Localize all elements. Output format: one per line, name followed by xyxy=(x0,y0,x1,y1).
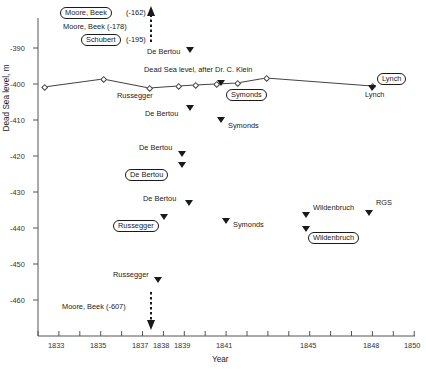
data-marker xyxy=(365,210,373,216)
annotation-schubert-195-value: (-195) xyxy=(126,36,146,43)
x-tick-label: 1848 xyxy=(363,341,379,350)
annotation-moore-beek-162-value: (-162) xyxy=(126,9,146,16)
y-tick-label: -430 xyxy=(10,188,25,197)
point-label-lynch-boxed: Lynch xyxy=(377,73,406,85)
data-marker xyxy=(217,80,225,86)
point-label-wildenbruch: Wildenbruch xyxy=(313,204,354,211)
off-scale-up-arrow xyxy=(147,6,155,42)
x-tick-label: 1838 xyxy=(153,341,169,350)
y-axis-title: Dead Sea level, m xyxy=(2,28,11,168)
data-marker xyxy=(178,162,186,168)
chart-axes xyxy=(0,0,426,369)
data-marker xyxy=(186,47,194,53)
point-label-symonds: Symonds xyxy=(228,122,259,129)
point-label-de-bertou-boxed: De Bertou xyxy=(125,169,168,181)
data-marker xyxy=(154,277,162,283)
x-tick-label: 1837 xyxy=(132,341,148,350)
x-axis-title: Year xyxy=(212,355,229,364)
x-tick-label: 1835 xyxy=(90,341,106,350)
point-label-rgs: RGS xyxy=(376,199,392,206)
point-label-symonds-boxed: Symonds xyxy=(226,89,267,101)
klein-level-line xyxy=(44,78,372,88)
data-marker xyxy=(160,214,168,220)
annotation-moore-beek-178: Moore, Beek (-178) xyxy=(63,23,127,30)
point-label-russegger: Russegger xyxy=(113,271,149,278)
y-tick-label: -420 xyxy=(10,152,25,161)
x-tick-label: 1845 xyxy=(300,341,316,350)
dead-sea-level-chart: -390 -400 -410 -420 -430 -440 -450 -460 … xyxy=(0,0,426,369)
point-label-wildenbruch-boxed: Wildenbruch xyxy=(308,232,359,244)
x-tick-label: 1841 xyxy=(216,341,232,350)
x-tick-label: 1839 xyxy=(174,341,190,350)
point-label-symonds: Symonds xyxy=(233,221,264,228)
data-marker xyxy=(186,105,194,111)
point-label-russegger: Russegger xyxy=(117,92,153,99)
y-tick-label: -390 xyxy=(10,44,25,53)
annotation-schubert-195: Schubert xyxy=(81,34,121,46)
annotation-moore-beek-162: Moore, Beek xyxy=(60,7,112,19)
data-marker xyxy=(222,218,230,224)
data-marker xyxy=(185,200,193,206)
point-label-lynch: Lynch xyxy=(365,91,384,98)
off-scale-down-arrow xyxy=(147,292,155,330)
point-label-de-bertou: De Bertou xyxy=(143,195,176,202)
data-marker xyxy=(302,212,310,218)
point-label-de-bertou: De Bertou xyxy=(147,48,180,55)
x-tick-label: 1850 xyxy=(404,341,420,350)
point-label-de-bertou: De Bertou xyxy=(145,110,178,117)
data-marker xyxy=(178,151,186,157)
x-tick-label: 1833 xyxy=(48,341,64,350)
y-tick-label: -440 xyxy=(10,224,25,233)
point-label-russegger-boxed: Russegger xyxy=(113,220,159,232)
y-tick-label: -460 xyxy=(10,296,25,305)
y-tick-label: -450 xyxy=(10,260,25,269)
data-marker xyxy=(302,226,310,232)
annotation-klein-line: Dead Sea level, after Dr. C. Klein xyxy=(144,66,252,73)
y-tick-label: -400 xyxy=(10,80,25,89)
data-marker xyxy=(217,117,225,123)
y-tick-label: -410 xyxy=(10,116,25,125)
annotation-moore-beek-607: Moore, Beek (-607) xyxy=(62,303,126,310)
point-label-de-bertou: De Bertou xyxy=(139,144,172,151)
